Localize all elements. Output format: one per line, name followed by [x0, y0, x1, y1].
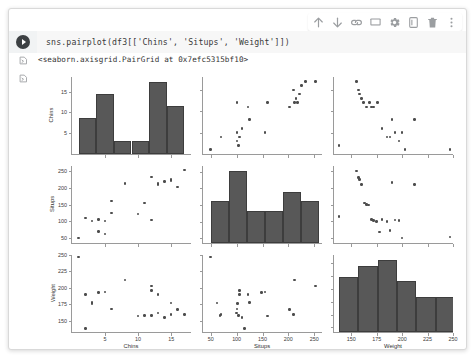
scatter-point: [338, 144, 341, 147]
scatter-point: [157, 182, 160, 185]
scatter-point: [404, 148, 407, 151]
move-cell-up-icon[interactable]: [312, 16, 325, 29]
y-tick-mark: [331, 221, 334, 222]
y-tick-label: 15: [61, 89, 67, 95]
x-axis-title: Weight: [384, 343, 402, 349]
scatter-point: [304, 80, 307, 83]
x-tick-label: 15: [168, 336, 174, 342]
x-tick-mark: [211, 244, 212, 247]
y-tick-mark: [331, 327, 334, 328]
scatter-point: [247, 293, 250, 296]
y-tick-mark: [69, 92, 72, 93]
x-tick-mark: [237, 244, 238, 247]
more-options-icon[interactable]: [445, 16, 458, 29]
y-tick-label: 150: [58, 318, 67, 324]
scatter-point: [237, 144, 240, 147]
scatter-point: [104, 233, 107, 236]
output-caret-icon: [19, 56, 28, 65]
scatter-point: [91, 302, 94, 305]
x-tick-label: 10: [135, 336, 141, 342]
y-axis-title: Chins: [48, 108, 54, 123]
x-tick-mark: [171, 155, 172, 158]
y-tick-mark: [331, 90, 334, 91]
scatter-point: [124, 279, 127, 282]
scatter-point: [243, 327, 246, 330]
scatter-point: [110, 308, 113, 311]
scatter-point: [362, 101, 365, 104]
histogram-bar: [265, 211, 283, 243]
x-tick-mark: [237, 155, 238, 158]
y-tick-mark: [69, 221, 72, 222]
scatter-point: [110, 212, 113, 215]
scatter-point: [381, 218, 384, 221]
scatter-point: [288, 106, 291, 109]
scatter-point: [358, 178, 361, 181]
x-tick-label: 5: [104, 336, 107, 342]
run-cell-button[interactable]: [16, 35, 30, 49]
scatter-point: [236, 101, 239, 104]
y-tick-mark: [69, 304, 72, 305]
scatter-point: [176, 186, 179, 189]
x-tick-label: 200: [284, 336, 293, 342]
scatter-point: [360, 97, 363, 100]
delete-cell-icon[interactable]: [426, 16, 439, 29]
x-tick-mark: [402, 244, 403, 247]
scatter-point: [241, 127, 244, 130]
y-tick-mark: [200, 133, 203, 134]
scatter-point: [241, 316, 244, 319]
scatter-point: [394, 219, 397, 222]
scatter-point: [266, 101, 269, 104]
scatter-point: [389, 229, 392, 232]
plot-area: [334, 166, 453, 243]
x-tick-mark: [138, 244, 139, 247]
mirror-cell-icon[interactable]: [407, 16, 420, 29]
add-comment-icon[interactable]: [369, 16, 382, 29]
plot-area: [334, 255, 453, 332]
scatter-point: [288, 308, 291, 311]
output-text-row: <seaborn.axisgrid.PairGrid at 0x7efc5315…: [9, 55, 466, 69]
y-tick-mark: [200, 111, 203, 112]
y-tick-label: 200: [58, 185, 67, 191]
move-cell-down-icon[interactable]: [331, 16, 344, 29]
link-to-cell-icon[interactable]: [350, 16, 363, 29]
x-tick-label: 100: [232, 336, 241, 342]
pairplot-panel-weight-chins: [333, 77, 453, 155]
x-tick-mark: [377, 155, 378, 158]
cell-settings-gear-icon[interactable]: [388, 16, 401, 29]
x-tick-mark: [263, 244, 264, 247]
scatter-point: [248, 301, 251, 304]
scatter-point: [355, 170, 358, 173]
scatter-point: [449, 236, 452, 239]
pairplot-panel-weight-weight: 150175200225250Weight: [333, 255, 453, 333]
scatter-point: [157, 312, 160, 315]
scatter-point: [292, 89, 295, 92]
scatter-point: [398, 140, 401, 143]
y-tick-mark: [69, 171, 72, 172]
scatter-point: [391, 181, 394, 184]
scatter-point: [183, 313, 186, 316]
x-tick-mark: [211, 155, 212, 158]
x-tick-mark: [351, 244, 352, 247]
y-tick-mark: [331, 263, 334, 264]
histogram-bar: [339, 277, 358, 332]
scatter-point: [104, 291, 107, 294]
y-tick-mark: [200, 255, 203, 256]
x-tick-label: 225: [423, 336, 432, 342]
x-tick-mark: [402, 155, 403, 158]
scatter-point: [143, 202, 146, 205]
run-cell-gutter: [9, 31, 37, 53]
scatter-point: [137, 213, 140, 216]
scatter-point: [84, 217, 87, 220]
x-tick-label: 50: [208, 336, 214, 342]
y-tick-mark: [331, 188, 334, 189]
scatter-point: [357, 89, 360, 92]
cell-toolbar: [308, 13, 462, 31]
y-tick-mark: [69, 133, 72, 134]
y-tick-mark: [69, 205, 72, 206]
scatter-point: [391, 118, 394, 121]
code-editor[interactable]: sns.pairplot(df3[['Chins', 'Situps', 'We…: [37, 31, 466, 53]
scatter-point: [296, 101, 299, 104]
scatter-point: [401, 131, 404, 134]
scatter-point: [372, 106, 375, 109]
plot-area: [334, 77, 453, 154]
